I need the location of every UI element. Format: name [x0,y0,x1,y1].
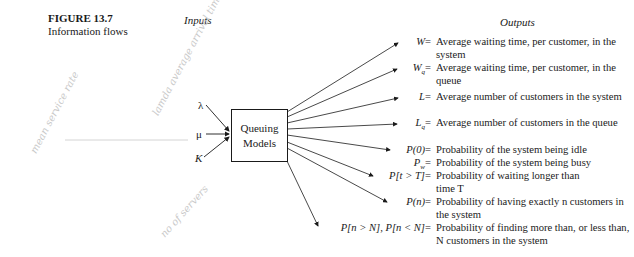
output-row-p0: P(0) = Probability of the system being i… [0,144,634,157]
output-symbol: W [416,36,425,49]
output-symbol: Wq [413,62,425,79]
figure-number: FIGURE 13.7 [48,12,113,24]
output-description: Probability of having exactly n customer… [436,196,634,221]
output-symbol: Lq [416,117,425,134]
output-row-w: W = Average waiting time, per customer, … [0,36,634,62]
output-description: Probability of finding more than, or les… [436,222,634,247]
equals-sign: = [425,36,431,49]
output-description: Probability of waiting longer than time … [436,170,586,195]
output-row-pw: Pw = Probability of the system being bus… [0,157,634,170]
output-symbol: P(0) [406,144,425,157]
output-row-wq: Wq = Average waiting time, per customer,… [0,62,634,88]
output-description: Probability of the system being idle [436,144,634,157]
output-description: Probability of the system being busy [436,157,634,170]
output-description: Average waiting time, per customer, in t… [436,62,634,87]
outputs-header: Outputs [500,16,535,28]
output-description: Average number of customers in the syste… [436,91,634,104]
output-symbol: P(n) [406,196,425,209]
output-row-pn: P(n) = Probability of having exactly n c… [0,196,634,222]
equals-sign: = [425,117,431,130]
output-row-lq: Lq = Average number of customers in the … [0,117,634,143]
equals-sign: = [425,196,431,209]
equals-sign: = [425,62,431,75]
output-row-ptT: P[t > T] = Probability of waiting longer… [0,170,634,196]
output-description: Average waiting time, per customer, in t… [436,36,634,61]
equals-sign: = [425,170,431,183]
output-symbol: P[t > T] [389,170,425,183]
output-symbol: P[n > N], P[n < N] [341,222,425,235]
equals-sign: = [425,157,431,170]
output-description: Average number of customers in the queue [436,117,634,130]
equals-sign: = [425,144,431,157]
equals-sign: = [425,91,431,104]
output-row-pnN: P[n > N], P[n < N] = Probability of find… [0,222,634,248]
output-row-l: L = Average number of customers in the s… [0,91,634,117]
equals-sign: = [425,222,431,235]
